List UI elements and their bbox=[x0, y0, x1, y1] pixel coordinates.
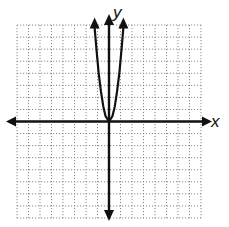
x-axis-label: x bbox=[210, 112, 220, 131]
axes bbox=[6, 14, 212, 221]
curve-left-arrow-icon bbox=[90, 17, 100, 28]
y-axis-label: y bbox=[112, 3, 123, 22]
coordinate-graph: x y bbox=[0, 0, 229, 227]
x-axis-left-arrow-icon bbox=[6, 117, 16, 127]
y-axis-down-arrow-icon bbox=[104, 210, 114, 221]
